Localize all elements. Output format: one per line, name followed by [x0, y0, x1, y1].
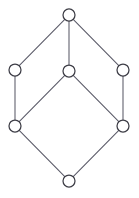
hasse-diagram-canvas: [0, 0, 139, 198]
graph-edge-lower-right-to-bottom: [73, 130, 119, 176]
graph-node-upper-left[interactable]: [9, 64, 21, 76]
graph-edge-lower-left-to-bottom: [19, 130, 65, 176]
graph-node-middle[interactable]: [63, 65, 75, 77]
graph-node-lower-left[interactable]: [9, 120, 21, 132]
edge-layer: [15, 19, 123, 176]
graph-node-top[interactable]: [63, 9, 75, 21]
graph-node-upper-right[interactable]: [117, 64, 129, 76]
graph-node-lower-right[interactable]: [117, 120, 129, 132]
graph-node-bottom[interactable]: [63, 175, 75, 187]
graph-edge-middle-to-lower-left: [19, 75, 65, 121]
hasse-diagram-svg: [0, 0, 139, 198]
graph-edge-middle-to-lower-right: [73, 75, 119, 121]
graph-edge-top-to-upper-left: [19, 19, 65, 65]
graph-edge-top-to-upper-right: [73, 19, 119, 65]
